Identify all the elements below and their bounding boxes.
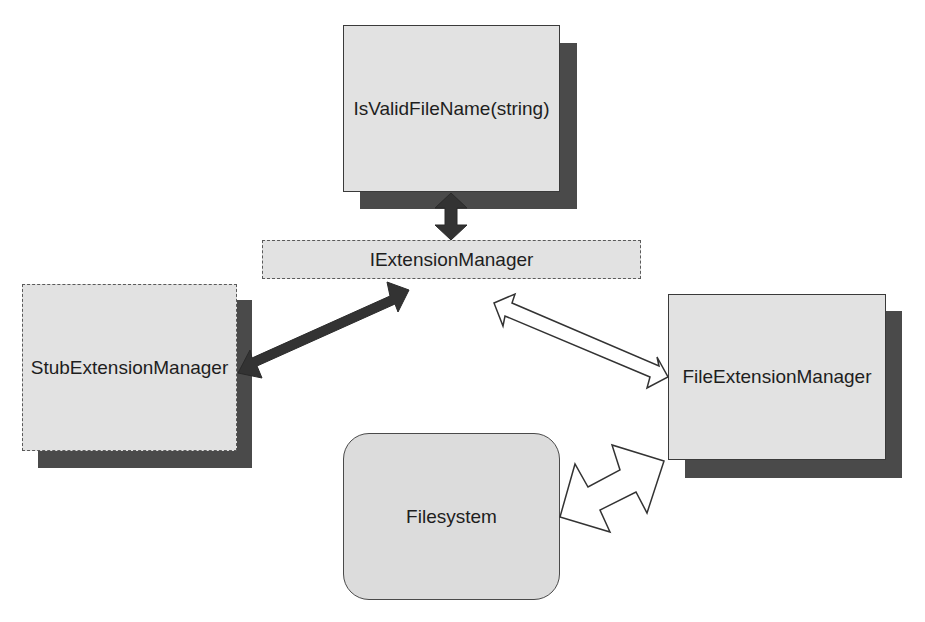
iface-file-arrow-icon (494, 294, 668, 388)
stub-iface-arrow-icon (238, 282, 409, 378)
arrows-layer (0, 0, 925, 622)
filesystem-file-arrow-icon (560, 445, 664, 532)
isvalid-iface-arrow-icon (435, 193, 467, 240)
